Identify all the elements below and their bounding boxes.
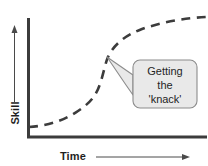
callout-tail [107,57,133,95]
callout-line-1: Getting [134,64,196,78]
y-axis-arrow-head-icon [12,25,18,33]
skill-over-time-chart: Skill Time Getting the 'knack' [0,0,208,166]
callout-line-3: 'knack' [134,92,196,106]
x-axis-title: Time [60,150,86,162]
callout-line-2: the [134,78,196,92]
x-axis-arrow-head-icon [182,154,190,160]
callout-label: Getting the 'knack' [134,64,196,106]
y-axis-title: Skill [9,94,21,132]
